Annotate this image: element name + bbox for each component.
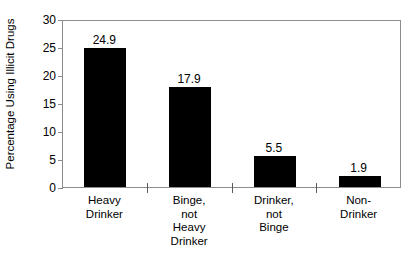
- bar-value-label: 17.9: [164, 73, 214, 85]
- y-axis-tick-label: 30: [28, 14, 56, 26]
- x-axis-tick-mark: [232, 183, 233, 193]
- y-axis-tick-label: 10: [28, 126, 56, 138]
- x-axis-category-label: Binge, not Heavy Drinker: [147, 194, 231, 248]
- bar-value-label: 1.9: [334, 162, 384, 174]
- y-axis-tick-label: 15: [28, 98, 56, 110]
- y-axis-tick-label: 20: [28, 70, 56, 82]
- x-axis-category-label: Heavy Drinker: [62, 194, 146, 221]
- caption-remnant: [8, 261, 408, 264]
- bar: [169, 87, 211, 187]
- y-axis-tick-label: 25: [28, 42, 56, 54]
- y-axis-title: Percentage Using Illicit Drugs: [0, 0, 20, 188]
- y-axis-tick-mark: [58, 188, 63, 189]
- bar-value-label: 5.5: [249, 142, 299, 154]
- x-axis-category-label: Drinker, not Binge: [232, 194, 316, 235]
- bar-chart-figure: Percentage Using Illicit Drugs 051015202…: [0, 0, 416, 265]
- x-axis-tick-mark: [316, 183, 317, 193]
- y-axis-tick-label: 0: [28, 182, 56, 194]
- bar: [339, 176, 381, 187]
- x-axis-tick-mark: [147, 183, 148, 193]
- x-axis-category-label: Non- Drinker: [317, 194, 401, 221]
- y-axis-tick-label: 5: [28, 154, 56, 166]
- bar-value-label: 24.9: [79, 34, 129, 46]
- bar: [254, 156, 296, 187]
- y-axis-tick-labels: 051015202530: [24, 0, 56, 265]
- bar: [84, 48, 126, 187]
